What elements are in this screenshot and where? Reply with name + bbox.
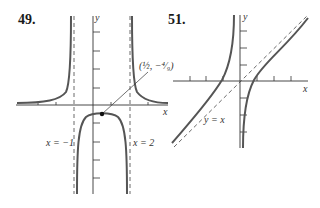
fig49-curve-left xyxy=(17,16,71,103)
fig49-x-axis-label: x xyxy=(163,106,167,117)
figure-49 xyxy=(16,16,168,194)
fig51-y-axis-label: y xyxy=(243,11,247,22)
fig51-curve-right xyxy=(243,18,308,148)
figure-51 xyxy=(172,15,308,148)
fig51-x-ticks xyxy=(190,76,291,81)
fig49-leader-line xyxy=(102,72,148,114)
fig49-curve-middle xyxy=(77,113,127,194)
fig49-asymptote-right-label: x = 2 xyxy=(133,137,154,148)
fig51-x-axis-label: x xyxy=(303,83,307,94)
fig49-y-axis-label: y xyxy=(95,12,99,23)
graphs-canvas xyxy=(0,0,320,208)
fig49-asymptote-left-label: x = −1 xyxy=(46,137,74,148)
fig49-point-label: (½, −⁴⁄₉) xyxy=(139,60,174,71)
fig51-asymptote-label: y = x xyxy=(204,114,225,125)
fig49-marked-point xyxy=(100,112,104,116)
